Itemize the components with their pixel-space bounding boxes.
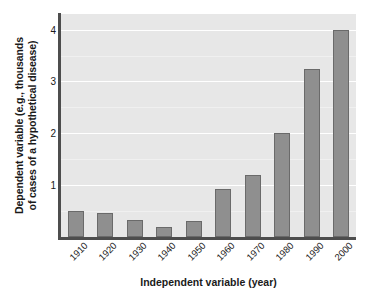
bar-1910 (68, 211, 84, 237)
x-tick-label-1930: 1930 (115, 240, 148, 273)
x-tick-label-1950: 1950 (174, 240, 207, 273)
y-axis-title-line-2: of cases of a hypothetical disease) (25, 37, 38, 214)
x-tick-label-2000: 2000 (322, 240, 355, 273)
bar-1970 (245, 175, 261, 237)
y-axis-tick-labels: 1234 (40, 0, 56, 297)
bar-1960 (215, 189, 231, 237)
y-tick-label-4: 4 (42, 24, 56, 35)
x-tick-label-1960: 1960 (204, 240, 237, 273)
y-axis-line (58, 13, 61, 238)
x-tick-label-1990: 1990 (292, 240, 325, 273)
x-tick-label-1910: 1910 (56, 240, 89, 273)
bar-2000 (333, 30, 349, 237)
bar-1990 (304, 69, 320, 238)
x-axis-title: Independent variable (year) (61, 276, 356, 288)
bar-1920 (97, 213, 113, 237)
y-tick-label-3: 3 (42, 76, 56, 87)
y-axis-title-line-1: Dependent variable (e.g., thousands (13, 37, 26, 214)
y-tick-label-1: 1 (42, 180, 56, 191)
plot-area (61, 14, 356, 237)
bar-1930 (127, 220, 143, 237)
bar-series (61, 14, 356, 237)
bar-1980 (274, 133, 290, 237)
x-tick-label-1980: 1980 (263, 240, 296, 273)
bar-1950 (186, 221, 202, 237)
x-tick-label-1920: 1920 (86, 240, 119, 273)
x-tick-label-1970: 1970 (233, 240, 266, 273)
bar-chart-figure: Dependent variable (e.g., thousands of c… (0, 0, 366, 297)
x-axis-tick-labels: 1910192019301940195019601970198019902000 (61, 240, 356, 274)
y-tick-label-2: 2 (42, 128, 56, 139)
bar-1940 (156, 227, 172, 237)
x-tick-label-1940: 1940 (145, 240, 178, 273)
